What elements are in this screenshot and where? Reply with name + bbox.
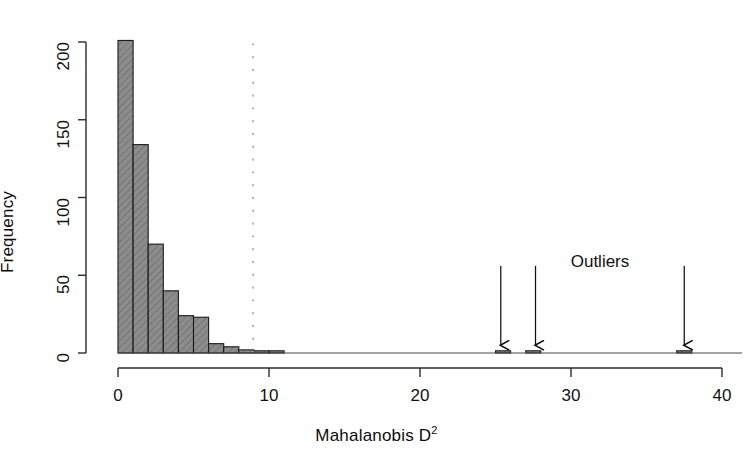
bars-group [118, 40, 692, 353]
histogram-bar [178, 316, 193, 353]
histogram-bar [194, 317, 209, 353]
histogram-bar [209, 344, 224, 353]
histogram-bar [133, 145, 148, 353]
histogram-bar [224, 347, 239, 353]
histogram-bar [118, 40, 133, 353]
arrows-group [501, 266, 684, 345]
histogram-chart: Frequency Mahalanobis D2 0 50 100 150 20… [0, 0, 753, 464]
histogram-bar [163, 291, 178, 353]
plot-canvas [0, 0, 753, 464]
histogram-bar [148, 244, 163, 353]
